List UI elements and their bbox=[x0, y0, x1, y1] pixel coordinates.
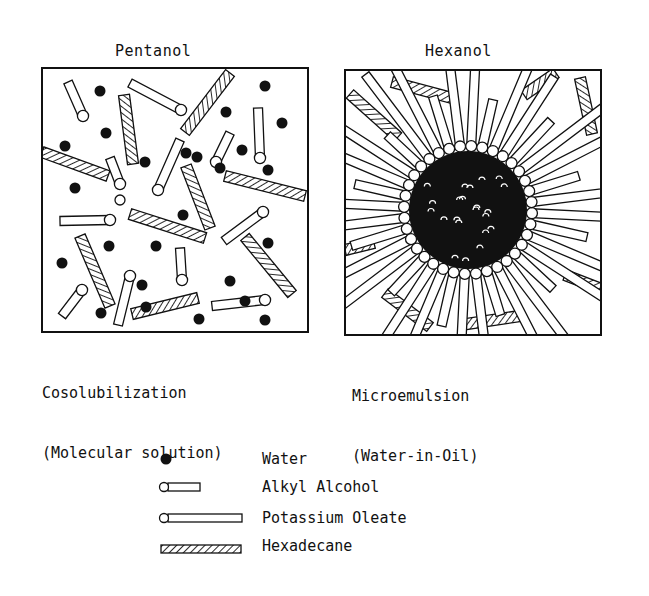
water-molecule bbox=[151, 241, 162, 252]
polar-head bbox=[470, 268, 481, 279]
water-molecule bbox=[101, 128, 112, 139]
water-molecule bbox=[96, 308, 107, 319]
water-molecule bbox=[215, 163, 226, 174]
hexadecane-molecule bbox=[181, 70, 235, 136]
cosolubilization-caption: Cosolubilization (Molecular solution) bbox=[42, 343, 223, 483]
caption-line-1: Microemulsion bbox=[352, 386, 478, 406]
potassium-oleate-molecule bbox=[532, 209, 627, 223]
polar-head bbox=[526, 208, 537, 219]
microemulsion-caption: Microemulsion (Water-in-Oil) bbox=[352, 346, 478, 486]
polar-head bbox=[466, 141, 477, 152]
caption-line-2: (Molecular solution) bbox=[42, 443, 223, 463]
water-molecule bbox=[57, 258, 68, 269]
polar-head bbox=[404, 180, 415, 191]
hexadecane-molecule bbox=[224, 171, 307, 202]
legend-label-potassium-oleate: Potassium Oleate bbox=[262, 509, 407, 527]
polar-head bbox=[400, 190, 411, 201]
legend-label-water: Water bbox=[262, 450, 307, 468]
polar-head bbox=[521, 229, 532, 240]
water-molecule bbox=[104, 241, 115, 252]
water-molecule bbox=[137, 280, 148, 291]
hexadecane-molecule bbox=[128, 209, 206, 243]
polar-head bbox=[519, 175, 530, 186]
polar-head bbox=[477, 142, 488, 153]
water-molecule bbox=[178, 210, 189, 221]
alkyl-alcohol-molecule-tail bbox=[114, 275, 135, 326]
hexadecane-molecule bbox=[40, 147, 110, 181]
caption-line-2: (Water-in-Oil) bbox=[352, 446, 478, 466]
hexadecane-icon bbox=[161, 545, 241, 553]
alkyl-alcohol-molecule bbox=[128, 79, 187, 116]
hexadecane-molecule bbox=[119, 94, 139, 164]
polar-head bbox=[524, 186, 535, 197]
alkyl-alcohol-molecule bbox=[254, 108, 266, 164]
potassium-oleate-icon bbox=[160, 514, 243, 523]
water-molecule bbox=[260, 315, 271, 326]
water-molecule bbox=[60, 141, 71, 152]
alkyl-alcohol-molecule-tail bbox=[211, 296, 265, 311]
water-molecule bbox=[70, 183, 81, 194]
polar-head bbox=[399, 212, 410, 223]
polar-head bbox=[526, 197, 537, 208]
water-molecule bbox=[194, 314, 205, 325]
polar-head bbox=[401, 223, 412, 234]
polar-head bbox=[433, 148, 444, 159]
polar-head bbox=[459, 268, 470, 279]
polar-head bbox=[481, 266, 492, 277]
polar-head bbox=[455, 141, 466, 152]
polar-head bbox=[399, 201, 410, 212]
water-molecule bbox=[221, 107, 232, 118]
legend-label-hexadecane: Hexadecane bbox=[262, 537, 352, 555]
polar-head bbox=[525, 219, 536, 230]
water-molecule bbox=[192, 152, 203, 163]
alkyl-alcohol-molecule-tail bbox=[254, 108, 265, 158]
water-molecule bbox=[95, 86, 106, 97]
hexadecane-molecule bbox=[181, 164, 215, 230]
water-molecule bbox=[260, 81, 271, 92]
alkyl-alcohol-molecule bbox=[176, 248, 188, 286]
water-molecule bbox=[263, 238, 274, 249]
polar-head bbox=[444, 143, 455, 154]
water-molecule bbox=[225, 276, 236, 287]
hexadecane-molecule bbox=[459, 311, 521, 331]
alkyl-alcohol-molecule-tail bbox=[60, 216, 110, 226]
microemulsion-panel bbox=[281, 41, 631, 395]
polar-head bbox=[438, 263, 449, 274]
cosolubilization-panel bbox=[40, 70, 306, 326]
water-molecule bbox=[240, 296, 251, 307]
polar-head bbox=[448, 267, 459, 278]
diagram-canvas bbox=[0, 0, 649, 596]
polar-head bbox=[487, 146, 498, 157]
legend-label-alkyl-alcohol: Alkyl Alcohol bbox=[262, 478, 379, 496]
alkyl-alcohol-molecule bbox=[152, 138, 184, 195]
alkyl-alcohol-molecule-tail bbox=[154, 138, 184, 192]
alkyl-alcohol-molecule bbox=[58, 284, 87, 318]
alkyl-alcohol-icon bbox=[160, 483, 201, 492]
water-molecule bbox=[141, 302, 152, 313]
alkyl-alcohol-molecule bbox=[64, 80, 89, 121]
water-molecule bbox=[140, 157, 151, 168]
alkyl-alcohol-molecule bbox=[210, 131, 234, 168]
alkyl-alcohol-molecule-tail bbox=[128, 79, 183, 114]
potassium-oleate-molecule bbox=[467, 42, 481, 146]
water-molecule bbox=[181, 148, 192, 159]
alkyl-alcohol-molecule bbox=[60, 214, 116, 225]
polar-head bbox=[492, 261, 503, 272]
water-molecule bbox=[237, 145, 248, 156]
potassium-oleate-molecule bbox=[303, 197, 404, 211]
polar-head bbox=[406, 234, 417, 245]
water-molecule bbox=[263, 165, 274, 176]
caption-line-1: Cosolubilization bbox=[42, 383, 223, 403]
water-molecule bbox=[277, 118, 288, 129]
